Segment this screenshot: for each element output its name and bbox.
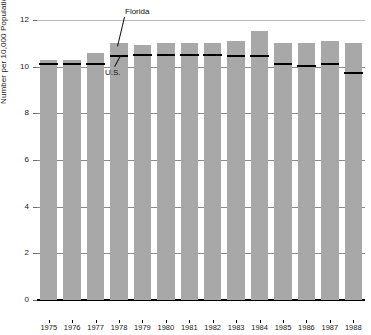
bar-florida-1976[interactable] <box>63 60 80 300</box>
x-tick-label-1976: 1976 <box>60 323 84 332</box>
bar-florida-1988[interactable] <box>345 43 362 300</box>
us-line-1975[interactable] <box>39 63 58 65</box>
y-tick-mark-8 <box>33 113 37 114</box>
annotation-label-us: U.S. <box>105 68 121 77</box>
bar-florida-1982[interactable] <box>204 43 221 300</box>
us-line-1984[interactable] <box>250 55 269 57</box>
y-tick-label-8: 8 <box>11 108 29 117</box>
bar-florida-1981[interactable] <box>181 43 198 300</box>
y-tick-mark-12 <box>33 20 37 21</box>
x-tick-label-1984: 1984 <box>248 323 272 332</box>
y-tick-label-4: 4 <box>11 202 29 211</box>
y-tick-mark-10 <box>33 67 37 68</box>
y-tick-mark-4 <box>33 207 37 208</box>
us-line-1985[interactable] <box>274 63 293 65</box>
us-line-1987[interactable] <box>321 63 340 65</box>
x-tick-label-1985: 1985 <box>271 323 295 332</box>
x-tick-label-1980: 1980 <box>154 323 178 332</box>
us-line-1976[interactable] <box>63 63 82 65</box>
bar-florida-1983[interactable] <box>227 41 244 300</box>
x-tick-label-1983: 1983 <box>224 323 248 332</box>
y-tick-label-12: 12 <box>11 15 29 24</box>
y-tick-label-10: 10 <box>11 62 29 71</box>
us-line-1983[interactable] <box>227 55 246 57</box>
bar-florida-1980[interactable] <box>157 43 174 300</box>
x-tick-label-1987: 1987 <box>318 323 342 332</box>
y-tick-mark-6 <box>33 160 37 161</box>
x-tick-label-1975: 1975 <box>37 323 61 332</box>
y-tick-label-0: 0 <box>11 295 29 304</box>
x-tick-label-1978: 1978 <box>107 323 131 332</box>
y-tick-label-6: 6 <box>11 155 29 164</box>
bar-florida-1979[interactable] <box>134 45 151 301</box>
chart-figure: Number per 10,000 Population 02468101219… <box>0 0 371 335</box>
bar-florida-1987[interactable] <box>321 41 338 300</box>
bar-florida-1984[interactable] <box>251 31 268 301</box>
us-line-1981[interactable] <box>180 54 199 56</box>
x-tick-label-1986: 1986 <box>294 323 318 332</box>
y-tick-mark-2 <box>33 253 37 254</box>
us-line-1988[interactable] <box>344 72 363 74</box>
bar-florida-1986[interactable] <box>298 43 315 300</box>
bar-florida-1978[interactable] <box>110 43 127 300</box>
us-line-1986[interactable] <box>297 65 316 67</box>
y-axis-title: Number per 10,000 Population <box>0 0 8 104</box>
bar-florida-1985[interactable] <box>274 43 291 300</box>
us-line-1977[interactable] <box>86 63 105 65</box>
gridline-12 <box>37 20 365 21</box>
plot-area: 0246810121975197619771978197919801981198… <box>37 20 365 300</box>
x-tick-label-1979: 1979 <box>130 323 154 332</box>
bar-florida-1977[interactable] <box>87 53 104 300</box>
bar-florida-1975[interactable] <box>40 60 57 300</box>
x-tick-label-1981: 1981 <box>177 323 201 332</box>
x-tick-label-1988: 1988 <box>341 323 365 332</box>
annotation-label-florida: Florida <box>125 7 149 16</box>
us-line-1982[interactable] <box>203 54 222 56</box>
annotation-leader-florida <box>117 17 125 47</box>
y-tick-label-2: 2 <box>11 248 29 257</box>
x-tick-label-1982: 1982 <box>201 323 225 332</box>
x-tick-label-1977: 1977 <box>84 323 108 332</box>
us-line-1979[interactable] <box>133 54 152 56</box>
us-line-1980[interactable] <box>157 54 176 56</box>
